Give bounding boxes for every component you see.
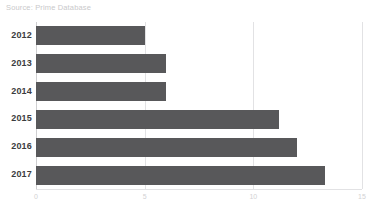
bar-chart: Source: Prime Database 20122013201420152… bbox=[0, 0, 380, 212]
gridline-5 bbox=[145, 22, 146, 189]
bar-2017 bbox=[36, 166, 325, 185]
x-tick-label-0: 0 bbox=[34, 193, 38, 200]
bar-2014 bbox=[36, 82, 166, 101]
bar-2012 bbox=[36, 26, 145, 45]
gridline-15 bbox=[362, 22, 363, 189]
gridline-0 bbox=[36, 22, 37, 189]
bar-fill bbox=[36, 26, 145, 45]
x-tick-label-10: 10 bbox=[249, 193, 257, 200]
bar-2016 bbox=[36, 138, 297, 157]
plot-area bbox=[36, 22, 362, 189]
category-label-2014: 2014 bbox=[0, 86, 32, 96]
category-label-2017: 2017 bbox=[0, 169, 32, 179]
bar-2015 bbox=[36, 110, 279, 129]
bar-fill bbox=[36, 54, 166, 73]
bar-fill bbox=[36, 110, 279, 129]
category-label-2016: 2016 bbox=[0, 141, 32, 151]
bar-fill bbox=[36, 138, 297, 157]
category-label-2013: 2013 bbox=[0, 58, 32, 68]
category-label-2015: 2015 bbox=[0, 113, 32, 123]
source-note: Source: Prime Database bbox=[6, 3, 91, 12]
x-tick-label-15: 15 bbox=[358, 193, 366, 200]
bar-fill bbox=[36, 166, 325, 185]
bar-fill bbox=[36, 82, 166, 101]
category-label-2012: 2012 bbox=[0, 30, 32, 40]
x-axis-baseline bbox=[36, 189, 362, 190]
gridline-10 bbox=[253, 22, 254, 189]
bar-2013 bbox=[36, 54, 166, 73]
x-tick-label-5: 5 bbox=[143, 193, 147, 200]
